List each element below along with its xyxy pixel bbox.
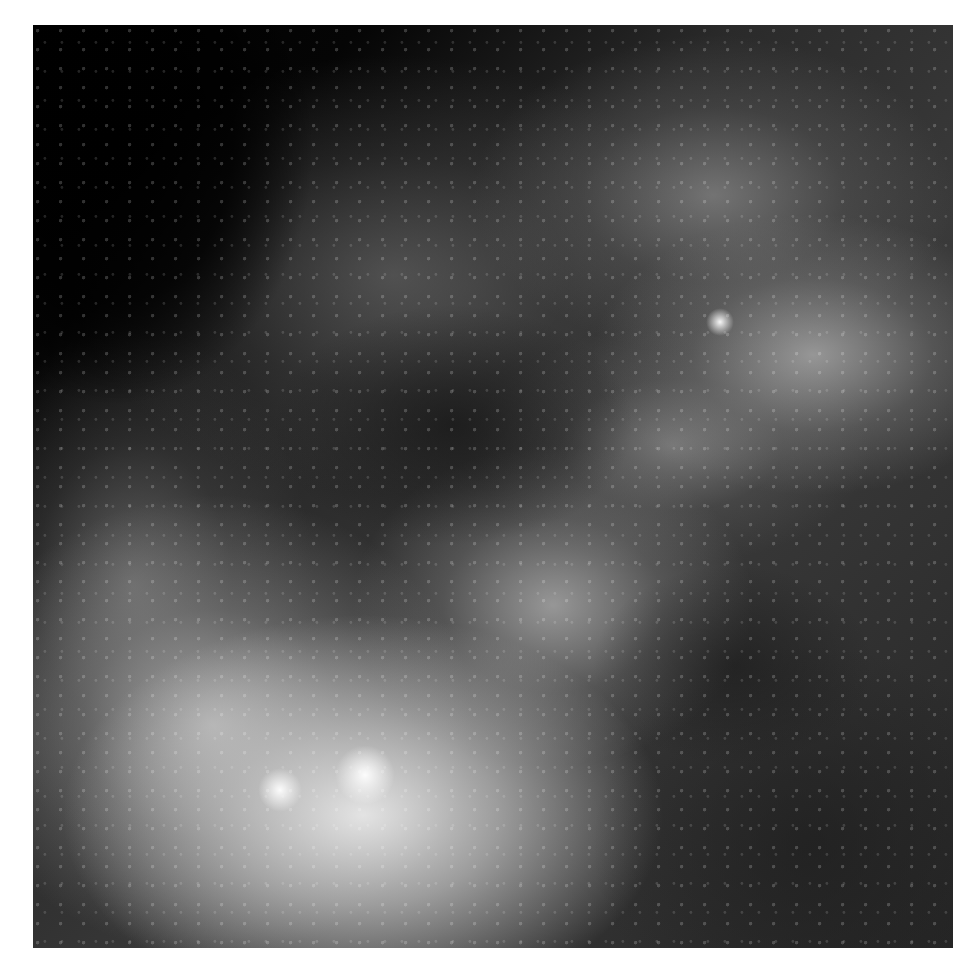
bright-cluster-lower-center: [335, 745, 395, 805]
bright-cluster-lower-left: [258, 768, 302, 812]
microcalcification-speckle: [33, 25, 953, 948]
radiograph-image: [33, 25, 953, 948]
bright-focus-upper-right: [706, 308, 734, 336]
